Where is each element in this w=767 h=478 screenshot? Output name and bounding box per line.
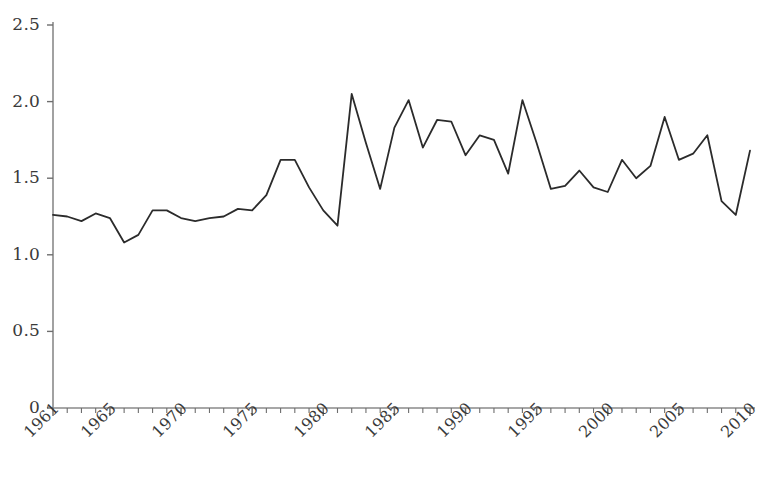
- chart-container: 00.51.01.52.02.5 19611965197019751980198…: [0, 0, 767, 478]
- y-axis-tick-label: 1.5: [0, 167, 40, 187]
- series-line: [53, 94, 750, 243]
- data-series-group: [53, 94, 750, 243]
- y-axis-ticks: [47, 25, 53, 408]
- axis-group: [47, 22, 755, 416]
- y-axis-tick-label: 2.5: [0, 14, 40, 34]
- y-axis-tick-label: 1.0: [0, 244, 40, 264]
- y-axis-tick-label: 0.5: [0, 320, 40, 340]
- y-axis-tick-label: 2.0: [0, 91, 40, 111]
